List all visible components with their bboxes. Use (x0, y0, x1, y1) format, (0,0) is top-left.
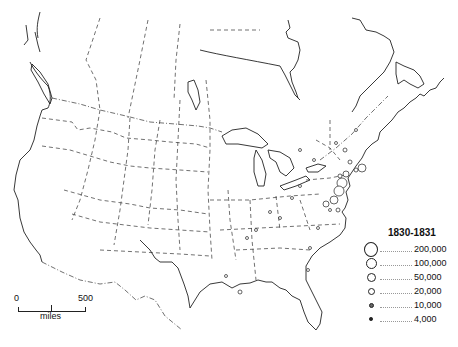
leader-dots (380, 302, 412, 308)
legend-label: 10,000 (414, 300, 442, 310)
legend-label: 50,000 (414, 272, 442, 282)
hudson-bay (200, 20, 300, 100)
lake-huron (268, 150, 294, 176)
gulf-coastline (140, 208, 346, 330)
legend-label: 100,000 (414, 258, 447, 268)
lake-erie (280, 176, 310, 190)
legend-entry: 50,000 (364, 270, 458, 284)
circle-symbol-icon (368, 288, 375, 295)
circle-symbol-icon (369, 303, 374, 308)
leader-dots (380, 260, 412, 266)
legend-entry: 10,000 (364, 298, 458, 312)
circle-symbol-icon (367, 273, 376, 282)
legend-title: 1830-1831 (388, 227, 458, 238)
lake-ontario (306, 164, 326, 172)
legend-entry: 20,000 (364, 284, 458, 298)
scale-bar: 0 500 miles (14, 293, 96, 323)
leader-dots (380, 246, 412, 252)
population-legend: 1830-1831 200,000 100,000 50,000 20,000 … (364, 227, 458, 326)
legend-label: 200,000 (414, 244, 447, 254)
leader-dots (380, 288, 412, 294)
legend-entry: 100,000 (364, 256, 458, 270)
scale-start-label: 0 (14, 293, 19, 303)
city-markers (225, 129, 367, 295)
legend-label: 20,000 (414, 286, 442, 296)
lake-superior (222, 128, 268, 148)
scale-unit-label: miles (40, 311, 61, 321)
legend-entry: 4,000 (364, 312, 458, 326)
leader-dots (380, 316, 412, 322)
scale-end-label: 500 (78, 293, 93, 303)
lake-winnipeg (188, 80, 200, 110)
circle-symbol-icon (364, 242, 378, 257)
labrador-coast (352, 18, 424, 112)
circle-symbol-icon (369, 317, 373, 321)
pacific-coastline (14, 12, 50, 262)
leader-dots (380, 274, 412, 280)
legend-label: 4,000 (414, 314, 437, 324)
legend-entry: 200,000 (364, 242, 458, 256)
lake-michigan (254, 150, 266, 186)
international-border (52, 96, 388, 160)
circle-symbol-icon (366, 258, 377, 269)
